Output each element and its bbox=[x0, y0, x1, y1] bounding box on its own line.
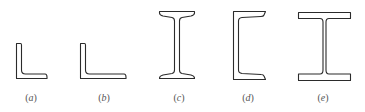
i-beam-section-c bbox=[160, 12, 195, 79]
label-close-paren: ) bbox=[251, 92, 254, 103]
label-a: (a) bbox=[25, 92, 37, 103]
label-close-paren: ) bbox=[325, 92, 328, 103]
angle-section-a bbox=[17, 44, 48, 79]
label-d: (d) bbox=[242, 92, 254, 103]
label-close-paren: ) bbox=[181, 92, 184, 103]
label-b: (b) bbox=[98, 92, 110, 103]
label-e: (e) bbox=[317, 92, 328, 103]
angle-section-b bbox=[81, 44, 127, 79]
label-close-paren: ) bbox=[34, 92, 37, 103]
wide-flange-section-e bbox=[299, 13, 351, 81]
label-close-paren: ) bbox=[107, 92, 110, 103]
label-c: (c) bbox=[173, 92, 184, 103]
channel-section-d bbox=[234, 12, 266, 80]
